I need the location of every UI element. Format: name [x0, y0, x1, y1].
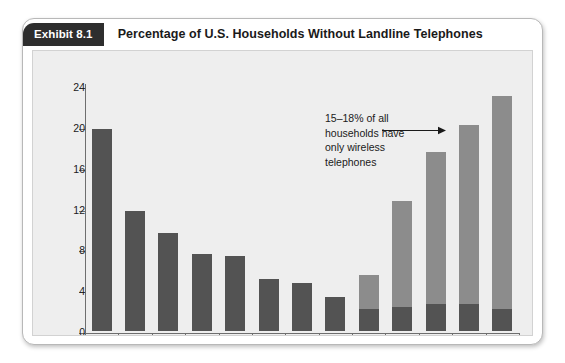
- bar-1975: [158, 233, 178, 331]
- x-axis-tick: [85, 333, 86, 336]
- bar-segment-base: [459, 304, 479, 331]
- x-axis-tick: [185, 333, 186, 336]
- bar-segment-base: [225, 256, 245, 331]
- x-axis-tick: [118, 333, 119, 336]
- x-axis-tick: [319, 333, 320, 336]
- y-axis-line: [85, 84, 86, 334]
- x-axis-tick: [486, 333, 487, 336]
- x-axis-tick: [252, 333, 253, 336]
- bar-segment-wireless-only: [459, 125, 479, 305]
- chart-plot-area: 04812162024 1965197019751980198519901995…: [32, 50, 533, 336]
- bar-segment-base: [259, 279, 279, 331]
- exhibit-number-tag: Exhibit 8.1: [23, 23, 104, 46]
- bar-2007: [426, 152, 446, 331]
- y-axis-tick-label: 24: [45, 81, 85, 93]
- exhibit-header: Exhibit 8.1 Percentage of U.S. Household…: [23, 19, 542, 49]
- bar-segment-base: [92, 129, 112, 331]
- bar-segment-base: [359, 309, 379, 331]
- bar-2009: [492, 96, 512, 331]
- bar-segment-wireless-only: [392, 201, 412, 306]
- annotation-line-3: only wireless: [325, 140, 437, 155]
- x-axis-tick: [285, 333, 286, 336]
- exhibit-title: Percentage of U.S. Households Without La…: [118, 27, 483, 41]
- x-axis-tick: [152, 333, 153, 336]
- bar-2003: [359, 275, 379, 331]
- bar-2008: [459, 125, 479, 331]
- bar-1965: [92, 129, 112, 331]
- bar-2005: [392, 201, 412, 331]
- annotation-line-4: telephones: [325, 155, 437, 170]
- x-axis-line: [85, 333, 519, 334]
- chart-annotation: 15–18% of all households have only wirel…: [325, 111, 437, 169]
- x-axis-tick: [352, 333, 353, 336]
- bar-segment-base: [125, 211, 145, 331]
- bar-segment-base: [158, 233, 178, 331]
- bar-1995: [292, 283, 312, 331]
- bar-1990: [259, 279, 279, 331]
- bar-segment-base: [192, 254, 212, 331]
- y-axis-tick-label: 0: [45, 326, 85, 336]
- bar-1980: [192, 254, 212, 331]
- y-axis-tick-label: 12: [45, 204, 85, 216]
- exhibit-card: Exhibit 8.1 Percentage of U.S. Household…: [22, 18, 543, 345]
- bar-segment-base: [392, 307, 412, 332]
- bar-segment-base: [426, 304, 446, 331]
- bar-segment-wireless-only: [359, 275, 379, 309]
- bar-segment-wireless-only: [426, 152, 446, 304]
- bar-1970: [125, 211, 145, 331]
- bar-segment-base: [292, 283, 312, 331]
- annotation-arrow-icon: [382, 126, 448, 135]
- bar-1985: [225, 256, 245, 331]
- y-axis-tick-label: 4: [45, 285, 85, 297]
- x-axis-tick: [219, 333, 220, 336]
- y-axis-tick-label: 16: [45, 163, 85, 175]
- bar-segment-wireless-only: [492, 96, 512, 308]
- bar-2001: [325, 297, 345, 331]
- annotation-line-1: 15–18% of all: [325, 111, 437, 126]
- x-axis-tick: [519, 333, 520, 336]
- y-axis-tick-label: 20: [45, 122, 85, 134]
- bar-segment-base: [492, 309, 512, 331]
- y-axis-tick-label: 8: [45, 244, 85, 256]
- x-axis-tick: [385, 333, 386, 336]
- bar-segment-base: [325, 297, 345, 331]
- x-axis-tick: [452, 333, 453, 336]
- x-axis-tick: [419, 333, 420, 336]
